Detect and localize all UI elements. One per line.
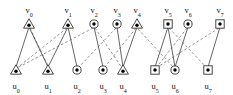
node-v6[interactable] — [184, 20, 192, 28]
dashed-edge-v4-u6 — [138, 29, 174, 68]
node-label-v2: v2 — [90, 5, 97, 18]
node-label-v6: v6 — [184, 5, 191, 18]
dashed-edge-v5-u7 — [169, 28, 207, 68]
node-label-v0: v0 — [25, 5, 32, 18]
node-u3[interactable] — [99, 66, 107, 74]
dashed-edge-v0-u1 — [30, 28, 49, 68]
node-u2[interactable] — [73, 66, 81, 74]
node-center-dot-icon — [14, 70, 17, 73]
node-center-dot-icon — [46, 70, 49, 73]
node-center-dot-icon — [218, 22, 221, 25]
node-center-dot-icon — [186, 22, 189, 25]
node-label-v5: v5 — [164, 5, 171, 18]
node-label-u4: u4 — [119, 81, 126, 94]
node-center-dot-icon — [173, 68, 176, 71]
node-center-dot-icon — [206, 68, 209, 71]
node-v2[interactable] — [90, 20, 98, 28]
node-center-dot-icon — [92, 22, 95, 25]
bipartite-graph-diagram: v0v1v2v3v4v5v6v7u0u1u2u3u4u5u6u7 — [0, 0, 233, 95]
node-label-u0: u0 — [12, 81, 19, 94]
node-v1[interactable] — [63, 19, 74, 28]
solid-edge-v1-u2 — [68, 27, 77, 67]
node-v3[interactable] — [113, 20, 121, 28]
node-v7[interactable] — [216, 20, 224, 28]
node-v5[interactable] — [164, 20, 172, 28]
node-u4[interactable] — [118, 65, 129, 74]
solid-edge-v0-u1 — [29, 27, 48, 67]
solid-edge-v0-u0 — [16, 27, 29, 67]
node-center-dot-icon — [75, 68, 78, 71]
solid-edge-v1-u1 — [48, 27, 68, 67]
solid-edge-v3-u4 — [117, 27, 123, 67]
node-u1[interactable] — [43, 65, 54, 74]
node-label-v7: v7 — [216, 5, 223, 18]
node-center-dot-icon — [115, 22, 118, 25]
node-v0[interactable] — [24, 19, 35, 28]
node-group — [11, 19, 225, 74]
dashed-edge-v3-u2 — [78, 28, 116, 68]
node-label-group: v0v1v2v3v4v5v6v7u0u1u2u3u4u5u6u7 — [12, 5, 223, 94]
node-label-u6: u6 — [171, 81, 178, 94]
node-u6[interactable] — [171, 66, 179, 74]
dashed-edge-v1-u0 — [17, 28, 67, 68]
node-label-u1: u1 — [44, 81, 51, 94]
node-label-v3: v3 — [113, 5, 120, 18]
solid-edge-v6-u6 — [175, 27, 188, 67]
solid-edge-v7-u7 — [208, 27, 220, 67]
graph-canvas: v0v1v2v3v4v5v6v7u0u1u2u3u4u5u6u7 — [0, 0, 233, 95]
node-center-dot-icon — [153, 68, 156, 71]
solid-edge-v5-u5 — [155, 27, 168, 67]
solid-edge-v4-u4 — [123, 27, 137, 67]
node-center-dot-icon — [27, 24, 30, 27]
node-label-v1: v1 — [64, 5, 71, 18]
node-center-dot-icon — [66, 24, 69, 27]
node-label-v4: v4 — [133, 5, 140, 18]
node-center-dot-icon — [135, 24, 138, 27]
node-center-dot-icon — [121, 70, 124, 73]
node-label-u7: u7 — [204, 81, 211, 94]
node-label-u3: u3 — [99, 81, 106, 94]
node-label-u5: u5 — [151, 81, 158, 94]
node-center-dot-icon — [101, 68, 104, 71]
dashed-edge-v2-u0 — [17, 28, 93, 68]
node-label-u2: u2 — [73, 81, 80, 94]
node-center-dot-icon — [166, 22, 169, 25]
node-u5[interactable] — [151, 66, 159, 74]
node-u7[interactable] — [204, 66, 212, 74]
node-v4[interactable] — [132, 19, 143, 28]
